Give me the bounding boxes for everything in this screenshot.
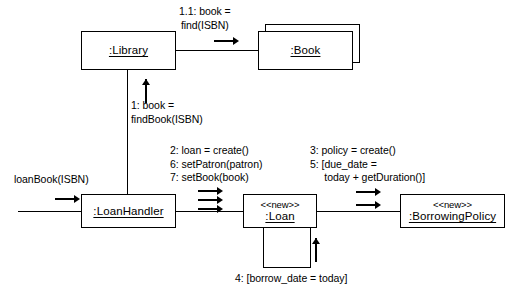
link-loan-self-left xyxy=(263,227,264,268)
object-book[interactable]: :Book xyxy=(258,31,353,70)
link-loan-self-right xyxy=(310,227,311,268)
link-loanhandler-library xyxy=(127,69,128,197)
object-book-label: :Book xyxy=(291,44,321,57)
message-label-handler-to-library: 1: book = findBook(ISBN) xyxy=(131,99,203,126)
link-loan-borrowingpolicy xyxy=(317,211,401,212)
object-loan-stereotype: <<new>> xyxy=(261,199,300,210)
message-label-loan-to-policy: 3: policy = create() 5: [due_date = toda… xyxy=(310,144,425,185)
message-label-handler-to-loan: 2: loan = create() 6: setPatron(patron) … xyxy=(170,144,262,185)
object-loan-label: :Loan xyxy=(265,210,294,223)
uml-communication-diagram: :Library :Book :LoanHandler <<new>> :Loa… xyxy=(0,0,509,298)
object-loan[interactable]: <<new>> :Loan xyxy=(243,194,317,228)
object-library[interactable]: :Library xyxy=(81,31,176,70)
object-borrowingpolicy[interactable]: <<new>> :BorrowingPolicy xyxy=(400,194,505,228)
link-actor-loanhandler xyxy=(18,211,82,212)
object-library-label: :Library xyxy=(109,44,148,57)
object-borrowingpolicy-label: :BorrowingPolicy xyxy=(409,210,496,223)
message-label-library-to-book: 1.1: book = find(ISBN) xyxy=(179,5,231,32)
object-loanhandler-label: :LoanHandler xyxy=(93,205,163,218)
message-label-entry: loanBook(ISBN) xyxy=(14,173,89,187)
link-loan-self-bottom xyxy=(263,267,311,268)
object-loanhandler[interactable]: :LoanHandler xyxy=(81,194,176,228)
object-borrowingpolicy-stereotype: <<new>> xyxy=(433,199,472,210)
link-library-book xyxy=(176,50,258,51)
message-label-loan-self: 4: [borrow_date = today] xyxy=(235,272,347,286)
link-loanhandler-loan xyxy=(176,211,243,212)
